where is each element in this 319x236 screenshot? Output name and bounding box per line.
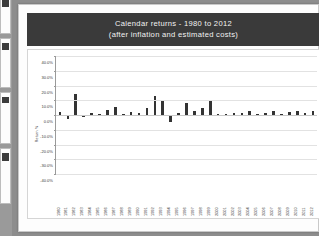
- thumbnail-page-2[interactable]: [0, 38, 11, 88]
- x-tick-label: 1996: [182, 207, 187, 216]
- y-axis-tick-labels: 40.0%30.0%20.0%10.0%0.0%-10.0%-20.0%-30.…: [34, 56, 54, 174]
- x-tick-label: 1990: [135, 207, 140, 216]
- chart-title-band: Calendar returns - 1980 to 2012 (after i…: [27, 13, 319, 46]
- x-tick-label: 1993: [158, 207, 163, 216]
- x-tick-label: 2005: [253, 207, 258, 216]
- x-tick-label: 1997: [190, 207, 195, 216]
- x-tick-label: 2004: [245, 207, 250, 216]
- y-tick-label: 20.0%: [41, 89, 53, 94]
- x-tick-label: 1980: [56, 207, 61, 216]
- x-tick-label: 1983: [79, 207, 84, 216]
- thumbnail-page-3[interactable]: [0, 92, 11, 144]
- screenshot-root: Calendar returns - 1980 to 2012 (after i…: [0, 0, 319, 236]
- x-tick-label: 2003: [237, 207, 242, 216]
- y-tick-mark: [54, 56, 56, 57]
- x-tick-label: 1991: [143, 207, 148, 216]
- y-tick-label: 10.0%: [41, 104, 53, 109]
- x-tick-label: 1989: [127, 207, 132, 216]
- x-tick-label: 2002: [230, 207, 235, 216]
- x-tick-label: 1992: [150, 207, 155, 216]
- x-axis-tick-labels: 1980198119821983198419851986198719881989…: [55, 174, 317, 216]
- thumbnail-strip[interactable]: [0, 0, 12, 236]
- x-tick-label: 1987: [111, 207, 116, 216]
- y-tick-label: -10.0%: [40, 133, 53, 138]
- y-tick-label: 40.0%: [41, 60, 53, 65]
- x-tick-label: 2000: [214, 207, 219, 216]
- x-tick-label: 2008: [277, 207, 282, 216]
- gridline: [56, 56, 317, 57]
- y-tick-mark: [54, 115, 56, 116]
- thumbnail-page-1[interactable]: [0, 0, 11, 34]
- x-tick-label: 1994: [166, 207, 171, 216]
- x-tick-label: 1981: [63, 207, 68, 216]
- y-tick-mark: [54, 145, 56, 146]
- x-tick-label: 2007: [269, 207, 274, 216]
- y-tick-label: -30.0%: [40, 163, 53, 168]
- gridline: [56, 100, 317, 101]
- chart-frame: Return % 40.0%30.0%20.0%10.0%0.0%-10.0%-…: [27, 49, 319, 219]
- x-tick-label: 1982: [71, 207, 76, 216]
- x-tick-label: 2010: [293, 207, 298, 216]
- bar: [146, 108, 149, 115]
- bar: [114, 107, 117, 115]
- x-tick-label: 1995: [174, 207, 179, 216]
- x-tick-label: 1986: [103, 207, 108, 216]
- y-tick-label: 30.0%: [41, 74, 53, 79]
- x-tick-label: 1999: [206, 207, 211, 216]
- bar: [201, 108, 204, 115]
- gridline: [56, 130, 317, 131]
- y-tick-mark: [54, 100, 56, 101]
- y-tick-mark: [54, 130, 56, 131]
- gridline: [56, 86, 317, 87]
- document-page: Calendar returns - 1980 to 2012 (after i…: [18, 4, 319, 232]
- gridline: [56, 145, 317, 146]
- x-tick-label: 2012: [309, 207, 314, 216]
- bar: [74, 94, 77, 115]
- y-tick-mark: [54, 159, 56, 160]
- x-tick-label: 1984: [87, 207, 92, 216]
- chart-title: Calendar returns - 1980 to 2012: [115, 19, 232, 30]
- bar: [154, 96, 157, 115]
- x-tick-label: 2011: [301, 208, 306, 216]
- x-tick-label: 2006: [261, 207, 266, 216]
- bar: [185, 103, 188, 115]
- y-tick-mark: [54, 71, 56, 72]
- plot-area: [55, 56, 317, 174]
- bar: [209, 100, 212, 115]
- bar: [169, 115, 172, 122]
- bar: [161, 100, 164, 115]
- x-tick-label: 1985: [95, 207, 100, 216]
- y-tick-mark: [54, 86, 56, 87]
- gridline: [56, 159, 317, 160]
- x-tick-label: 2001: [222, 207, 227, 216]
- plot-wrapper: Return % 40.0%30.0%20.0%10.0%0.0%-10.0%-…: [28, 50, 319, 218]
- x-tick-label: 2009: [285, 207, 290, 216]
- x-tick-label: 1988: [119, 207, 124, 216]
- gridline: [56, 71, 317, 72]
- y-tick-label: -40.0%: [40, 178, 53, 183]
- x-tick-label: 1998: [198, 207, 203, 216]
- y-tick-label: -20.0%: [40, 148, 53, 153]
- y-tick-label: 0.0%: [44, 119, 53, 124]
- thumbnail-page-4[interactable]: [0, 148, 11, 204]
- gridline: [56, 115, 317, 116]
- chart-subtitle: (after inflation and estimated costs): [109, 30, 238, 41]
